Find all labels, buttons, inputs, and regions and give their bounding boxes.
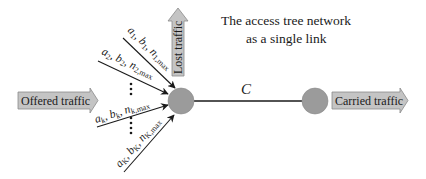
title-line-2: as a single link: [246, 31, 327, 46]
title-line-1: The access tree network: [221, 13, 351, 28]
destination-node: [302, 88, 328, 114]
carried-traffic-label: Carried traffic: [335, 94, 403, 108]
source-node: [168, 88, 194, 114]
access-tree-diagram: The access tree network as a single link…: [0, 0, 426, 179]
source-label-K: aK, bK, nK,max: [112, 115, 163, 171]
offered-traffic-label: Offered traffic: [21, 94, 90, 108]
link-capacity-label: C: [241, 81, 252, 97]
ellipsis-dots-upper: [130, 83, 133, 96]
carried-traffic-arrow: Carried traffic: [332, 88, 408, 113]
ellipsis-dots-lower: [130, 117, 133, 135]
source-label-k: ak, bk, nk,max: [93, 97, 151, 127]
offered-traffic-arrow: Offered traffic: [18, 88, 98, 113]
diagram-title: The access tree network as a single link: [221, 13, 351, 46]
lost-traffic-label: Lost traffic: [171, 21, 185, 74]
